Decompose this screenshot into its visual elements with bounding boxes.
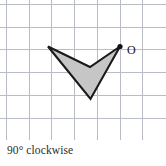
figure-caption: 90° clockwise bbox=[7, 143, 157, 158]
grid-diagram: O bbox=[0, 0, 166, 140]
figure-root: O 90° clockwise bbox=[0, 0, 166, 166]
origin-point-dot bbox=[117, 44, 122, 49]
origin-point-label: O bbox=[127, 43, 136, 57]
